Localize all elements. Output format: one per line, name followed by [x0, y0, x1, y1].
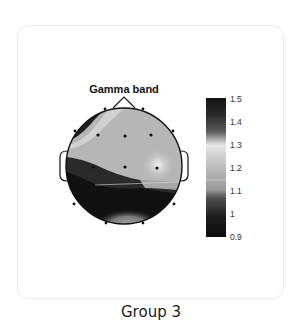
svg-text:1.1: 1.1: [230, 186, 242, 196]
topographic-plot: Gamma band: [0, 0, 302, 331]
electrode: [123, 134, 126, 137]
colorbar-ticks: 1.5 1.4 1.3 1.2 1.1 1 0.9: [230, 94, 242, 242]
electrode: [96, 133, 99, 136]
svg-text:1: 1: [230, 209, 235, 219]
electrode: [91, 165, 94, 168]
svg-text:1.4: 1.4: [230, 117, 242, 127]
electrode: [123, 165, 126, 168]
svg-text:1.3: 1.3: [230, 140, 242, 150]
figure-caption: Group 3: [0, 303, 302, 321]
svg-text:0.9: 0.9: [230, 232, 242, 242]
svg-text:1.5: 1.5: [230, 94, 242, 104]
band-title: Gamma band: [89, 83, 159, 95]
nose-marker: [113, 97, 135, 108]
electrode: [123, 196, 126, 199]
electrode: [149, 133, 152, 136]
svg-text:1.2: 1.2: [230, 163, 242, 173]
colorbar: [206, 98, 226, 237]
electrode: [149, 197, 152, 200]
scalp-map: [60, 100, 190, 242]
electrode: [155, 166, 158, 169]
